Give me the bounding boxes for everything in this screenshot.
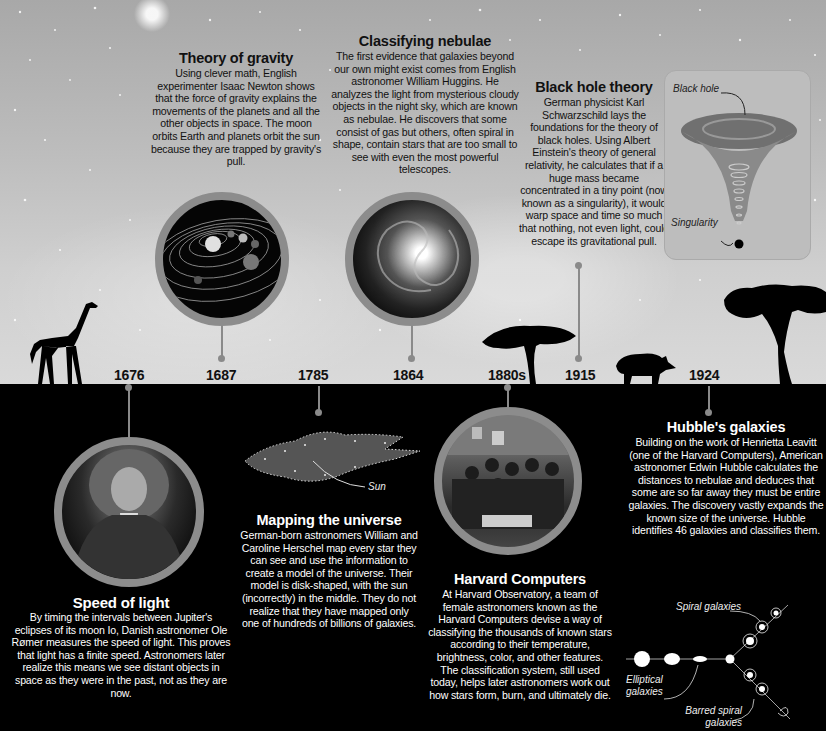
event-hubbles-galaxies: Hubble's galaxies Building on the work o… [628, 419, 824, 537]
event-speed-of-light: Speed of light By timing the intervals b… [10, 594, 232, 699]
solar-system-image [155, 192, 289, 326]
herschel-star-map [225, 415, 425, 495]
elliptical-galaxies-label: Elliptical galaxies [626, 674, 686, 698]
event-description: At Harvard Observatory, a team of female… [428, 588, 612, 701]
timeline-dot-1915-top [575, 262, 582, 269]
event-title: Speed of light [10, 594, 232, 611]
event-title: Hubble's galaxies [628, 419, 824, 436]
timeline-stem-1687 [221, 326, 223, 356]
barred-spiral-galaxies-label: Barred spiral galaxies [680, 705, 742, 729]
timeline-dot-1864 [408, 355, 415, 362]
event-theory-of-gravity: Theory of gravity Using clever math, Eng… [148, 50, 324, 168]
event-harvard-computers: Harvard Computers At Harvard Observatory… [428, 571, 612, 701]
event-description: German physicist Karl Schwarzschild lays… [518, 96, 670, 247]
timeline-dot-1915 [575, 355, 582, 362]
black-hole-diagram-panel: Black hole Singularity [664, 70, 811, 260]
acacia-tree-large [722, 282, 826, 386]
spiral-galaxy-image [345, 192, 479, 326]
sun-label: Sun [368, 481, 386, 492]
harvard-computers-photo [434, 407, 582, 555]
year-1785: 1785 [298, 367, 328, 383]
event-description: The first evidence that galaxies beyond … [330, 50, 520, 176]
event-title: Black hole theory [518, 79, 670, 96]
orbits-icon [163, 200, 281, 318]
event-black-hole-theory: Black hole theory German physicist Karl … [518, 79, 670, 247]
timeline-dot-1924 [705, 409, 712, 416]
timeline-stem-1915 [578, 266, 580, 358]
event-mapping-the-universe: Mapping the universe German-born astrono… [240, 512, 418, 630]
spiral-galaxy-icon [353, 200, 471, 318]
event-title: Classifying nebulae [330, 33, 520, 50]
spiral-galaxies-label: Spiral galaxies [676, 601, 741, 612]
event-title: Theory of gravity [148, 50, 324, 67]
black-hole-funnel-icon [665, 71, 812, 261]
event-description: Using clever math, English experimenter … [148, 67, 324, 168]
year-1864: 1864 [393, 367, 423, 383]
event-description: German-born astronomers William and Caro… [240, 529, 418, 630]
group-photo-icon [442, 415, 574, 547]
portrait-icon [62, 445, 196, 579]
year-1676: 1676 [114, 367, 144, 383]
giraffe-silhouette [22, 298, 102, 386]
singularity-label: Singularity [671, 217, 718, 228]
event-title: Harvard Computers [428, 571, 612, 588]
portrait-ole-romer [54, 437, 204, 587]
event-classifying-nebulae: Classifying nebulae The first evidence t… [330, 33, 520, 176]
event-description: By timing the intervals between Jupiter'… [10, 611, 232, 699]
rhino-silhouette [612, 352, 678, 386]
black-hole-label: Black hole [673, 83, 719, 94]
event-title: Mapping the universe [240, 512, 418, 529]
event-description: Building on the work of Henrietta Leavit… [628, 436, 824, 537]
year-1915: 1915 [565, 367, 595, 383]
year-1880s: 1880s [488, 367, 526, 383]
timeline-dot-1687 [218, 355, 225, 362]
timeline-stem-1676 [128, 386, 130, 441]
year-1924: 1924 [689, 367, 719, 383]
timeline-stem-1864 [411, 326, 413, 356]
timeline-dot-1676 [125, 384, 132, 391]
year-1687: 1687 [206, 367, 236, 383]
timeline-dot-1880s [504, 384, 511, 391]
